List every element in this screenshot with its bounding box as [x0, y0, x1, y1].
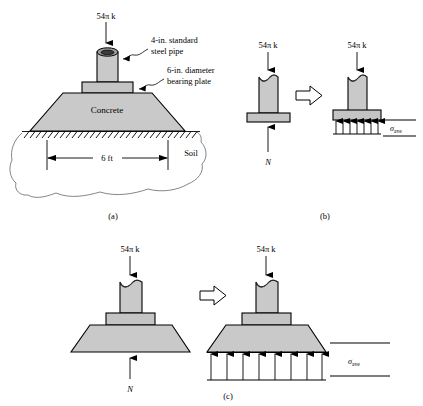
engineering-figure: 54π k Concrete Soil 6 ft — [0, 0, 423, 406]
bearing-plate-a — [82, 82, 133, 93]
panel-c-right-plate — [242, 313, 291, 325]
panel-b-right-load-label: 54π k — [347, 40, 367, 50]
panel-c-right-footing — [207, 325, 326, 352]
panel-b-caption: (b) — [320, 211, 330, 221]
panel-c-left-plate — [106, 313, 155, 325]
panel-b-left-load-label: 54π k — [258, 40, 278, 50]
concrete-label: Concrete — [91, 105, 123, 115]
annotation-bearing-plate-line2: bearing plate — [167, 76, 211, 86]
panel-c-left-load-label: 54π k — [120, 244, 140, 254]
soil-label: Soil — [184, 148, 198, 158]
figure-root: 54π k Concrete Soil 6 ft — [0, 0, 423, 406]
panel-a-caption: (a) — [108, 211, 118, 221]
panel-b-left-plate — [247, 113, 290, 122]
annotation-bearing-plate-line1: 6-in. diameter — [167, 65, 215, 75]
annotation-steel-pipe-line2: steel pipe — [151, 46, 184, 56]
panel-c-left-footing — [71, 325, 190, 352]
panel-a-load-label: 54π k — [96, 11, 116, 21]
dimension-label: 6 ft — [101, 153, 113, 163]
steel-pipe-a — [97, 48, 118, 82]
panel-c-right-load-label: 54π k — [256, 244, 276, 254]
panel-c-caption: (c) — [223, 391, 233, 401]
annotation-steel-pipe-line1: 4-in. standard — [151, 35, 198, 45]
panel-b-right-plate — [333, 110, 381, 120]
